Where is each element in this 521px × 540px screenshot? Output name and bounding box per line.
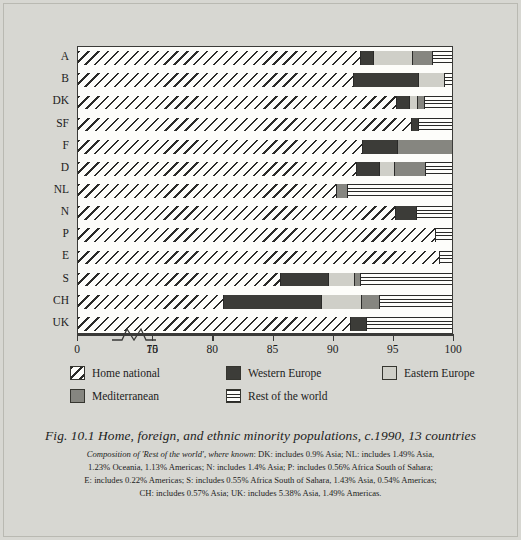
legend-swatch-icon (226, 389, 241, 403)
bar-segment-home (78, 162, 356, 176)
y-axis-label-a: A (61, 51, 69, 63)
x-tick-label: 100 (444, 343, 461, 355)
x-tick-label: 75 (146, 343, 158, 355)
bar-segment-med (361, 295, 379, 309)
bar-segment-home (78, 118, 411, 132)
bar-segment-home (78, 206, 395, 220)
bar-segment-med (417, 96, 424, 110)
y-axis-label-e: E (62, 250, 69, 262)
x-tick-label: 95 (387, 343, 399, 355)
legend-label: Mediterranean (92, 390, 159, 402)
bar-row (78, 140, 452, 154)
bar-segment-east (373, 51, 412, 65)
y-axis-label-sf: SF (56, 118, 69, 130)
bar-segment-rest (366, 317, 452, 331)
y-axis-label-uk: UK (52, 317, 69, 329)
bar-segment-west (356, 162, 380, 176)
bar-row (78, 206, 452, 220)
bar-segment-med (394, 162, 425, 176)
bar-segment-home (78, 96, 396, 110)
bar-segment-home (78, 73, 353, 87)
y-axis-label-ch: CH (53, 295, 69, 307)
legend-item-home-national: Home national (70, 366, 160, 380)
y-axis-labels: ABDKSFFDNLNPESCHUK (10, 46, 73, 334)
bar-row (78, 295, 452, 309)
bar-segment-west (350, 317, 366, 331)
x-tick-label: 85 (267, 343, 279, 355)
bar-segment-west (362, 140, 398, 154)
legend-item-eastern-europe: Eastern Europe (382, 366, 475, 380)
bar-segment-rest (347, 184, 452, 198)
y-axis-label-n: N (61, 206, 69, 218)
legend-item-rest-of-the-world: Rest of the world (226, 389, 328, 403)
x-tick-label: 90 (327, 343, 339, 355)
bar-row (78, 228, 452, 242)
bar-row (78, 118, 452, 132)
legend-swatch-icon (226, 366, 241, 380)
note-line-2: 1.23% Oceania, 1.13% Americas; N: includ… (88, 462, 433, 472)
bar-row (78, 73, 452, 87)
bar-segment-east (321, 295, 361, 309)
bar-segment-home (78, 228, 435, 242)
bar-segment-med (412, 51, 432, 65)
bar-segment-rest (379, 295, 452, 309)
note-line-4: CH: includes 0.57% Asia; UK: includes 5.… (139, 488, 381, 498)
bar-segment-west (395, 206, 416, 220)
legend-label: Eastern Europe (404, 367, 475, 379)
bar-segment-home (78, 140, 362, 154)
bar-segment-rest (432, 51, 452, 65)
bar-row (78, 273, 452, 287)
bar-segment-home (78, 273, 280, 287)
note-line-1: : DK: includes 0.9% Asia; NL: includes 1… (253, 449, 434, 459)
bar-segment-west (360, 51, 373, 65)
legend-label: Home national (92, 367, 160, 379)
legend-label: Western Europe (248, 367, 321, 379)
x-tick (393, 334, 394, 341)
bar-segment-rest (424, 96, 452, 110)
bar-segment-rest (360, 273, 452, 287)
legend-item-western-europe: Western Europe (226, 366, 321, 380)
bar-segment-rest (435, 228, 452, 242)
y-axis-label-b: B (61, 73, 69, 85)
bar-segment-rest (439, 251, 452, 265)
y-axis-label-d: D (61, 162, 69, 174)
bar-segment-west (396, 96, 409, 110)
x-tick (273, 334, 274, 341)
bar-segment-west (353, 73, 418, 87)
bar-segment-med (336, 184, 348, 198)
legend-swatch-icon (70, 389, 85, 403)
bar-segment-rest (418, 118, 452, 132)
x-tick-label: 0 (74, 343, 80, 355)
legend-label: Rest of the world (248, 390, 328, 402)
bar-segment-west (411, 118, 418, 132)
x-tick (453, 334, 454, 341)
legend-item-mediterranean: Mediterranean (70, 389, 159, 403)
x-tick (333, 334, 334, 341)
y-axis-label-s: S (63, 273, 69, 285)
x-tick-label: 80 (207, 343, 219, 355)
bar-series-container (78, 47, 452, 333)
bar-segment-east (409, 96, 417, 110)
bar-row (78, 251, 452, 265)
bar-segment-rest (416, 206, 452, 220)
bar-segment-east (328, 273, 354, 287)
bar-segment-rest (444, 73, 452, 87)
figure-note: Composition of 'Rest of the world', wher… (18, 448, 503, 500)
bar-segment-home (78, 184, 336, 198)
x-tick (77, 334, 78, 341)
figure-caption: Fig. 10.1 Home, foreign, and ethnic mino… (18, 428, 503, 500)
legend-swatch-icon (70, 366, 85, 380)
bar-segment-west (280, 273, 328, 287)
y-axis-label-f: F (63, 140, 69, 152)
bar-segment-west (223, 295, 321, 309)
y-axis-label-p: P (63, 228, 69, 240)
y-axis-label-nl: NL (54, 184, 69, 196)
bar-segment-east (418, 73, 444, 87)
bar-row (78, 162, 452, 176)
bar-row (78, 96, 452, 110)
x-tick (212, 334, 213, 341)
bar-row (78, 184, 452, 198)
figure-page: ABDKSFFDNLNPESCHUK 0107580859095100 Home… (0, 0, 521, 540)
bar-segment-rest (425, 162, 452, 176)
bar-segment-med (397, 140, 452, 154)
